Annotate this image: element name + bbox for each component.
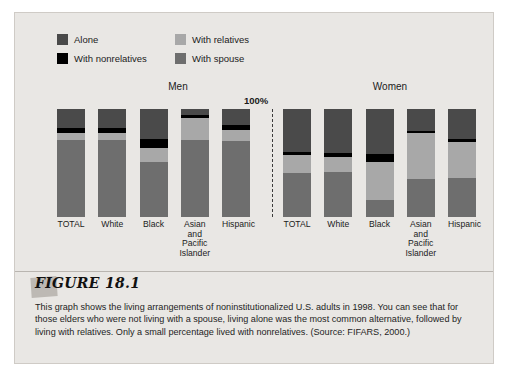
axis-dashed-line bbox=[272, 109, 273, 217]
bar-segment bbox=[407, 179, 435, 217]
bars-men bbox=[57, 109, 250, 217]
figure-tag: FIGURE 18.1 bbox=[35, 275, 140, 291]
bar-slot bbox=[366, 109, 394, 217]
stacked-bar[interactable] bbox=[140, 109, 168, 217]
stacked-bar[interactable] bbox=[57, 109, 85, 217]
category-label: White bbox=[98, 220, 126, 266]
bar-slot bbox=[324, 109, 352, 217]
bar-segment bbox=[181, 118, 209, 141]
bar-segment bbox=[140, 148, 168, 162]
bar-segment bbox=[448, 178, 476, 217]
stacked-bar[interactable] bbox=[407, 109, 435, 217]
category-labels-women: TOTALWhiteBlackAsian and Pacific Islande… bbox=[283, 220, 476, 266]
figure-caption: This graph shows the living arrangements… bbox=[35, 301, 479, 338]
category-label: Black bbox=[366, 220, 394, 266]
bar-segment bbox=[324, 109, 352, 153]
bar-segment bbox=[407, 109, 435, 131]
bar-segment bbox=[57, 140, 85, 217]
category-label: TOTAL bbox=[57, 220, 85, 266]
legend-item: Alone bbox=[57, 31, 175, 47]
legend-item: With spouse bbox=[175, 50, 305, 66]
category-label: Black bbox=[140, 220, 168, 266]
bar-slot bbox=[57, 109, 85, 217]
bar-slot bbox=[407, 109, 435, 217]
bar-segment bbox=[366, 162, 394, 200]
bar-segment bbox=[324, 157, 352, 172]
chart-panel: AloneWith relativesWith nonrelativesWith… bbox=[14, 12, 494, 364]
stacked-bar[interactable] bbox=[448, 109, 476, 217]
bar-segment bbox=[448, 109, 476, 139]
bars-women bbox=[283, 109, 476, 217]
bar-segment bbox=[283, 155, 311, 172]
legend-item-label: Alone bbox=[74, 34, 98, 45]
panel-title-men: Men bbox=[148, 81, 208, 92]
bar-segment bbox=[57, 109, 85, 128]
bar-slot bbox=[98, 109, 126, 217]
category-label: Asian and Pacific Islander bbox=[404, 220, 438, 266]
category-label: TOTAL bbox=[283, 220, 311, 266]
bar-slot bbox=[181, 109, 209, 217]
bar-segment bbox=[222, 130, 250, 142]
legend-item-label: With nonrelatives bbox=[74, 53, 147, 64]
legend-item-label: With spouse bbox=[192, 53, 244, 64]
bar-slot bbox=[140, 109, 168, 217]
stacked-bar[interactable] bbox=[283, 109, 311, 217]
category-label: White bbox=[324, 220, 352, 266]
category-label: Hispanic bbox=[448, 220, 476, 266]
bar-slot bbox=[448, 109, 476, 217]
legend-item: With relatives bbox=[175, 31, 305, 47]
axis-top-marker: 100% bbox=[244, 95, 268, 106]
bar-segment bbox=[98, 109, 126, 128]
legend-item: With nonrelatives bbox=[57, 50, 175, 66]
legend-swatch-icon bbox=[175, 53, 186, 64]
bar-segment bbox=[222, 141, 250, 217]
legend-swatch-icon bbox=[57, 53, 68, 64]
stacked-bar[interactable] bbox=[181, 109, 209, 217]
bar-slot bbox=[222, 109, 250, 217]
bar-segment bbox=[324, 172, 352, 217]
bar-segment bbox=[366, 200, 394, 217]
legend-swatch-icon bbox=[175, 34, 186, 45]
figure-container: AloneWith relativesWith nonrelativesWith… bbox=[0, 0, 508, 389]
bar-segment bbox=[98, 140, 126, 217]
stacked-bar[interactable] bbox=[324, 109, 352, 217]
stacked-bar[interactable] bbox=[366, 109, 394, 217]
bar-segment bbox=[98, 133, 126, 141]
caption-divider bbox=[15, 271, 493, 272]
bar-segment bbox=[140, 109, 168, 139]
bar-segment bbox=[366, 154, 394, 162]
category-labels-men: TOTALWhiteBlackAsian and Pacific Islande… bbox=[57, 220, 250, 266]
bar-slot bbox=[283, 109, 311, 217]
panel-title-women: Women bbox=[360, 81, 420, 92]
bar-segment bbox=[181, 140, 209, 217]
bar-segment bbox=[283, 109, 311, 152]
bar-segment bbox=[448, 142, 476, 178]
bar-segment bbox=[366, 109, 394, 154]
stacked-bar[interactable] bbox=[222, 109, 250, 217]
category-label: Hispanic bbox=[222, 220, 250, 266]
category-label: Asian and Pacific Islander bbox=[178, 220, 212, 266]
bar-segment bbox=[283, 173, 311, 217]
bar-segment bbox=[140, 139, 168, 148]
chart-legend: AloneWith relativesWith nonrelativesWith… bbox=[57, 31, 337, 66]
bar-segment bbox=[140, 162, 168, 217]
stacked-bar[interactable] bbox=[98, 109, 126, 217]
legend-swatch-icon bbox=[57, 34, 68, 45]
bar-segment bbox=[57, 133, 85, 141]
figure-tag-wrap: FIGURE 18.1 bbox=[35, 275, 140, 291]
bar-segment bbox=[407, 133, 435, 179]
legend-item-label: With relatives bbox=[192, 34, 249, 45]
bar-segment bbox=[222, 109, 250, 125]
